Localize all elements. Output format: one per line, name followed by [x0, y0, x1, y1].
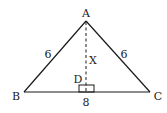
side-label-ab: 6: [45, 48, 52, 61]
vertex-label-b: B: [12, 90, 20, 103]
diagram-canvas: A B C D 6 6 8 X: [0, 0, 167, 113]
vertex-label-a: A: [81, 7, 91, 20]
vertex-label-c: C: [154, 90, 162, 103]
side-label-ac: 6: [121, 48, 128, 61]
side-label-bc: 8: [83, 96, 90, 109]
triangle-diagram: A B C D 6 6 8 X: [0, 0, 167, 113]
point-label-d: D: [74, 73, 83, 86]
altitude-label-x: X: [89, 54, 97, 67]
